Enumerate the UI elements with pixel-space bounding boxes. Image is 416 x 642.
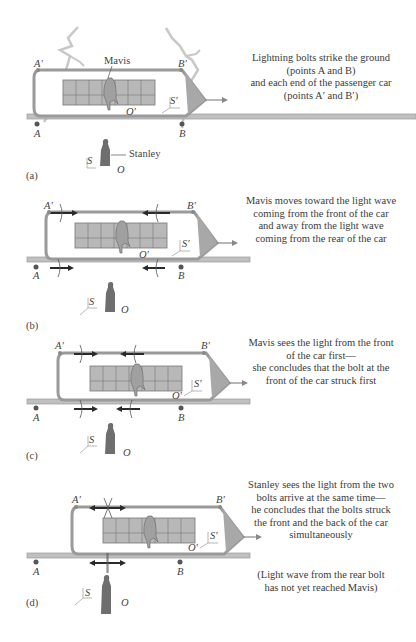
label-s-prime: S′	[210, 530, 218, 541]
caption-line: bolts arrive at the same time—	[232, 492, 410, 505]
caption-line: coming from the rear of the car	[232, 233, 410, 246]
label-o-prime: O′	[188, 542, 198, 553]
label-o-prime: O′	[172, 390, 182, 401]
point-b-prime	[202, 351, 206, 355]
arrowhead	[120, 560, 126, 566]
label-o: O	[121, 304, 129, 315]
car-nose	[197, 214, 217, 257]
caption-c: Mavis sees the light from the front of t…	[232, 337, 410, 387]
point-b	[179, 406, 184, 411]
arrowhead	[68, 265, 74, 271]
caption-line: of the car first—	[232, 350, 410, 363]
label-a-prime: A′	[44, 200, 53, 211]
caption-b: Mavis moves toward the light wave coming…	[232, 195, 410, 245]
point-a-prime	[74, 505, 78, 509]
point-a-prime	[58, 351, 62, 355]
caption-d: Stanley sees the light from the two bolt…	[232, 479, 410, 542]
label-b: B	[178, 412, 184, 423]
label-b-prime: B′	[216, 494, 225, 505]
stanley-figure	[105, 282, 115, 312]
panel-tag-d: (d)	[26, 597, 38, 608]
arrowhead	[92, 406, 98, 412]
caption-line: Stanley sees the light from the two	[232, 479, 410, 492]
label-o-prime: O′	[139, 249, 149, 260]
label-s-prime: S′	[194, 378, 202, 389]
label-b-prime: B′	[187, 200, 196, 211]
panel-b-drawing	[0, 0, 416, 642]
label-s-prime: S′	[182, 238, 190, 249]
label-s: S	[89, 434, 94, 445]
label-b: B	[178, 270, 184, 281]
note-d: (Light wave from the rear bolt has not y…	[232, 569, 410, 594]
caption-line: coming from the front of the car	[232, 208, 410, 221]
stanley-figure	[105, 423, 115, 454]
point-b-prime	[218, 505, 222, 509]
caption-line: she concludes that the bolt at the	[232, 362, 410, 375]
label-a-prime: A′	[72, 494, 81, 505]
label-a-prime: A′	[55, 340, 64, 351]
point-b	[178, 560, 183, 565]
stanley-figure	[101, 575, 111, 614]
panel-tag-c: (c)	[26, 450, 38, 461]
note-line: (Light wave from the rear bolt	[232, 569, 410, 582]
label-a: A	[33, 412, 39, 423]
point-a	[34, 406, 39, 411]
label-a: A	[33, 566, 39, 577]
label-s: S	[89, 296, 94, 307]
label-b-prime: B′	[201, 340, 210, 351]
caption-line: he concludes that the bolts struck	[232, 504, 410, 517]
caption-line: Mavis moves toward the light wave	[232, 195, 410, 208]
point-a	[34, 265, 39, 270]
arrowhead	[89, 560, 95, 566]
label-o: O	[121, 597, 129, 608]
caption-line: and away from the light wave	[232, 220, 410, 233]
caption-line: simultaneously	[232, 529, 410, 542]
note-line: has not yet reached Mavis)	[232, 582, 410, 595]
label-o: O	[123, 447, 131, 458]
label-b: B	[177, 566, 183, 577]
point-b	[179, 265, 184, 270]
label-s: S	[85, 587, 90, 598]
panel-tag-b: (b)	[26, 320, 38, 331]
label-a: A	[33, 270, 39, 281]
point-a	[34, 560, 39, 565]
arrowhead	[116, 406, 122, 412]
caption-line: front of the car struck first	[232, 375, 410, 388]
car-nose	[209, 355, 229, 398]
arrowhead	[142, 265, 148, 271]
caption-line: Mavis sees the light from the front	[232, 337, 410, 350]
caption-line: the front and the back of the car	[232, 517, 410, 530]
